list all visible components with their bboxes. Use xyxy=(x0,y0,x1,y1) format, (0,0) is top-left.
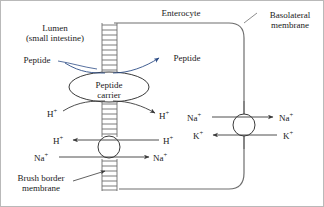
na-exchanger-cytosol-label: Na+ xyxy=(153,151,167,163)
peptide-cytosol-label: Peptide xyxy=(163,53,211,63)
basolateral-membrane-label: Basolateral membrane xyxy=(259,10,321,30)
lumen-label-line2: (small intestine) xyxy=(9,33,101,43)
enterocyte-label: Enterocyte xyxy=(141,8,221,18)
k-pump-cytosol-label: K+ xyxy=(193,129,203,141)
h-exchanger-cytosol-label: H+ xyxy=(163,134,173,146)
h-in-arrow-line xyxy=(63,101,105,111)
h-exchanger-lumen-label: H+ xyxy=(53,134,63,146)
carrier-label-line1: Peptide xyxy=(69,80,149,90)
brush-border-label-leader xyxy=(73,171,105,181)
h-out-arrow xyxy=(113,101,155,113)
peptide-in-arrow-line xyxy=(65,63,105,73)
carrier-label-line2: carrier xyxy=(69,90,149,100)
basolateral-label-line2: membrane xyxy=(259,20,321,30)
na-pump-blood-label: Na+ xyxy=(279,111,293,123)
figure-transport-diagram: Lumen (small intestine) Enterocyte Basol… xyxy=(0,0,324,207)
na-pump-cytosol-label: Na+ xyxy=(187,111,201,123)
na-exchanger-lumen-label: Na+ xyxy=(34,151,48,163)
brush-border-membrane-label: Brush border membrane xyxy=(6,173,76,193)
peptide-out-arrow xyxy=(113,58,159,73)
brush-border-label-line2: membrane xyxy=(6,183,76,193)
brush-border-label-line1: Brush border xyxy=(6,173,76,183)
lumen-label: Lumen (small intestine) xyxy=(9,23,101,43)
sodium-hydrogen-exchanger xyxy=(98,136,120,158)
basolateral-label-leader xyxy=(244,13,257,23)
enterocyte-cell-outline xyxy=(114,23,244,189)
h-apical-lumen-label: H+ xyxy=(47,107,57,119)
basolateral-label-line1: Basolateral xyxy=(259,10,321,20)
lumen-label-line1: Lumen xyxy=(9,23,101,33)
k-pump-blood-label: K+ xyxy=(283,129,293,141)
peptide-left-leader xyxy=(58,61,97,69)
peptide-lumen-label: Peptide xyxy=(13,55,61,65)
h-apical-cytosol-label: H+ xyxy=(159,109,169,121)
peptide-carrier-label: Peptide carrier xyxy=(69,80,149,100)
brush-border-membrane-ladder xyxy=(102,23,117,191)
